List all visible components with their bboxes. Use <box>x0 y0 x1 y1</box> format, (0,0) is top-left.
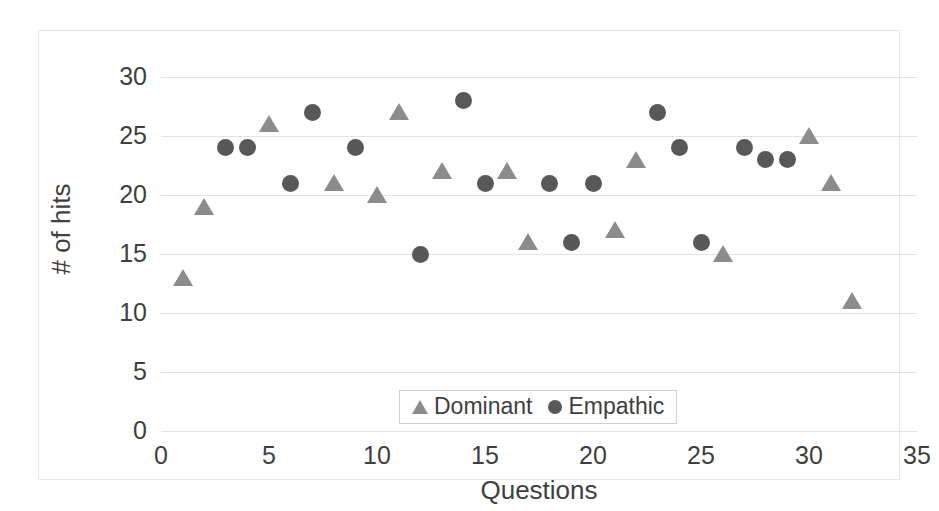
y-tick-label: 25 <box>87 123 147 148</box>
data-point-empathic <box>455 92 472 109</box>
data-point-empathic <box>671 139 688 156</box>
circle-marker-icon <box>548 400 562 414</box>
figure-frame: # of hits 051015202530 05101520253035 Qu… <box>38 30 900 480</box>
legend-label: Empathic <box>568 395 664 418</box>
scatter-chart: # of hits 051015202530 05101520253035 Qu… <box>0 0 939 511</box>
data-point-dominant <box>626 151 646 168</box>
gridline <box>161 136 917 137</box>
gridline <box>161 195 917 196</box>
x-axis-title: Questions <box>161 477 917 503</box>
x-tick-label: 35 <box>887 443 939 468</box>
y-tick-label: 5 <box>87 359 147 384</box>
gridline <box>161 431 917 432</box>
x-tick-label: 20 <box>563 443 623 468</box>
legend-label: Dominant <box>434 395 532 418</box>
data-point-empathic <box>477 175 494 192</box>
gridline <box>161 77 917 78</box>
data-point-empathic <box>282 175 299 192</box>
data-point-dominant <box>432 162 452 179</box>
y-tick-label: 30 <box>87 64 147 89</box>
data-point-dominant <box>173 269 193 286</box>
y-tick-label: 0 <box>87 418 147 443</box>
data-point-empathic <box>304 104 321 121</box>
data-point-dominant <box>194 198 214 215</box>
x-tick-label: 30 <box>779 443 839 468</box>
y-tick-label: 15 <box>87 241 147 266</box>
y-tick-label: 20 <box>87 182 147 207</box>
data-point-dominant <box>324 174 344 191</box>
gridline <box>161 372 917 373</box>
data-point-dominant <box>842 292 862 309</box>
x-tick-label: 0 <box>131 443 191 468</box>
x-axis-ticks: 05101520253035 <box>161 443 917 479</box>
data-point-empathic <box>649 104 666 121</box>
data-point-empathic <box>239 139 256 156</box>
chart-legend: DominantEmpathic <box>399 390 677 424</box>
x-tick-label: 10 <box>347 443 407 468</box>
data-point-empathic <box>541 175 558 192</box>
data-point-dominant <box>821 174 841 191</box>
data-point-dominant <box>605 221 625 238</box>
y-axis-ticks: 051015202530 <box>85 77 147 431</box>
gridline <box>161 313 917 314</box>
data-point-dominant <box>389 103 409 120</box>
data-point-empathic <box>347 139 364 156</box>
data-point-dominant <box>497 162 517 179</box>
x-tick-label: 5 <box>239 443 299 468</box>
y-tick-label: 10 <box>87 300 147 325</box>
x-tick-label: 15 <box>455 443 515 468</box>
plot-area <box>161 77 917 431</box>
legend-entry-dominant: Dominant <box>412 395 532 418</box>
data-point-empathic <box>563 234 580 251</box>
data-point-empathic <box>779 151 796 168</box>
data-point-dominant <box>259 115 279 132</box>
x-tick-label: 25 <box>671 443 731 468</box>
y-axis-title: # of hits <box>48 149 74 309</box>
data-point-empathic <box>757 151 774 168</box>
legend-entry-empathic: Empathic <box>548 395 664 418</box>
data-point-dominant <box>518 233 538 250</box>
data-point-empathic <box>585 175 602 192</box>
data-point-empathic <box>736 139 753 156</box>
gridline <box>161 254 917 255</box>
data-point-empathic <box>693 234 710 251</box>
data-point-empathic <box>217 139 234 156</box>
triangle-marker-icon <box>412 400 428 414</box>
